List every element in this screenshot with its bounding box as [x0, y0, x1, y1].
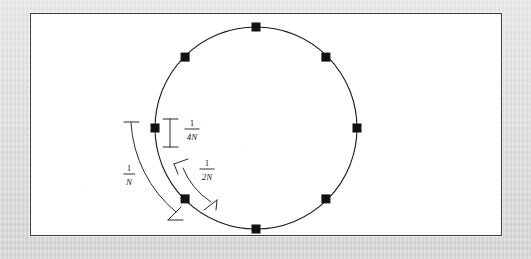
- sample-point-upper-right: [321, 53, 330, 62]
- one-over-n-tick-bottom: [168, 207, 181, 220]
- one-over-2n-tick-bottom-2: [216, 200, 217, 210]
- one-over-2n-label: 1 2N: [200, 158, 215, 182]
- sample-point-right: [353, 124, 362, 133]
- one-over-2n-tick-top: [174, 159, 188, 164]
- sample-point-lower-left: [181, 194, 190, 203]
- sample-point-markers: [151, 23, 362, 234]
- one-over-4n-label: 1 4N: [185, 118, 200, 142]
- one-over-2n-numerator: 1: [205, 158, 210, 168]
- sample-point-left: [151, 124, 160, 133]
- annotation-one-over-n: [124, 122, 183, 220]
- one-over-n-denominator: N: [125, 177, 133, 187]
- one-over-n-label: 1 N: [124, 163, 136, 187]
- annotation-one-over-2n: [174, 159, 217, 210]
- one-over-4n-denominator: 4N: [187, 132, 199, 142]
- one-over-2n-tick-top-2: [174, 164, 178, 174]
- one-over-2n-denominator: 2N: [202, 172, 214, 182]
- figure-page: 1 N 1 2N: [0, 0, 531, 259]
- annotation-one-over-4n: [163, 119, 178, 147]
- sample-point-lower-right: [321, 194, 330, 203]
- sample-point-upper-left: [181, 53, 190, 62]
- one-over-n-numerator: 1: [127, 163, 132, 173]
- sample-point-top: [252, 23, 261, 32]
- one-over-4n-numerator: 1: [190, 118, 195, 128]
- figure-frame: 1 N 1 2N: [30, 13, 502, 236]
- sample-point-bottom: [252, 225, 261, 234]
- one-over-n-arc: [131, 123, 176, 212]
- circle-diagram: 1 N 1 2N: [31, 14, 501, 235]
